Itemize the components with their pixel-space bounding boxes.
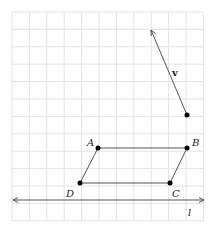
parallelogram-abcd: A B C D: [65, 137, 199, 199]
vector-v: v: [151, 30, 190, 118]
label-b: B: [191, 137, 199, 148]
diagram-canvas: l v A B C D: [0, 0, 217, 230]
line-l: l: [13, 198, 204, 219]
point-d: [78, 181, 83, 186]
label-a: A: [86, 137, 94, 148]
line-label-l: l: [188, 207, 191, 218]
point-a: [96, 146, 101, 151]
vector-tail-point: [185, 113, 190, 118]
label-d: D: [65, 188, 74, 199]
point-c: [168, 181, 173, 186]
point-b: [185, 146, 190, 151]
label-c: C: [172, 188, 180, 199]
vector-label-v: v: [171, 67, 179, 78]
